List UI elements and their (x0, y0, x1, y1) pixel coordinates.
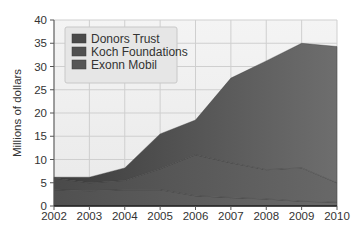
x-tick-label: 2004 (112, 210, 138, 222)
y-tick-label: 15 (34, 130, 47, 142)
legend-swatch (72, 34, 86, 43)
x-tick-label: 2002 (41, 210, 67, 222)
x-tick-label: 2010 (324, 210, 350, 222)
legend-swatch (72, 47, 86, 56)
stacked-area-chart: 0510152025303540200220032004200520062007… (0, 0, 357, 232)
y-axis-label: Millions of dollars (11, 69, 23, 157)
y-tick-label: 35 (34, 37, 47, 49)
legend-label: Donors Trust (91, 32, 160, 46)
x-tick-label: 2003 (77, 210, 103, 222)
legend: Donors TrustKoch FoundationsExonn Mobil (65, 27, 188, 83)
y-tick-label: 10 (34, 154, 47, 166)
x-tick-label: 2006 (183, 210, 209, 222)
y-tick-label: 25 (34, 84, 47, 96)
x-tick-label: 2008 (253, 210, 279, 222)
y-tick-label: 40 (34, 14, 47, 26)
y-tick-label: 20 (34, 107, 47, 119)
y-tick-label: 30 (34, 61, 47, 73)
legend-label: Exonn Mobil (91, 58, 157, 72)
x-tick-label: 2005 (147, 210, 173, 222)
legend-label: Koch Foundations (91, 45, 188, 59)
x-tick-label: 2009 (289, 210, 315, 222)
legend-swatch (72, 60, 86, 69)
x-tick-label: 2007 (218, 210, 244, 222)
y-tick-label: 5 (41, 177, 47, 189)
